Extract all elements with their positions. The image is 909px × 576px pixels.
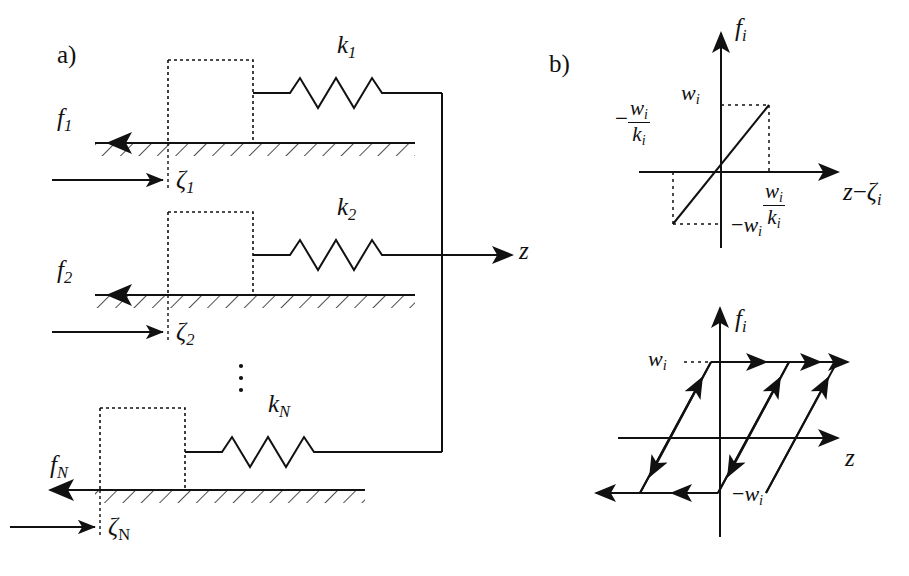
chart-bottom-ytick-negative: −wi bbox=[732, 481, 763, 509]
chart-top-xlabel: z−ζi bbox=[843, 178, 882, 210]
state-label-zetan: ζN bbox=[108, 513, 130, 545]
chart-top-xtick-negative: −wiki bbox=[615, 97, 650, 149]
spring-1 bbox=[253, 78, 442, 108]
figure-canvas bbox=[0, 0, 909, 576]
falling-branch-left bbox=[650, 362, 711, 476]
chart-top-ytick-negative: −wi bbox=[731, 212, 762, 240]
ground-surface-1 bbox=[95, 143, 415, 156]
chart-bottom-hysteresis bbox=[596, 308, 848, 537]
ground-surface-n bbox=[95, 490, 365, 503]
falling-branch-middle bbox=[728, 362, 789, 476]
spring-label-k1: k1 bbox=[337, 31, 356, 63]
maxwell-element-n bbox=[10, 408, 442, 537]
displacement-indicator-n bbox=[10, 490, 100, 537]
spring-2 bbox=[253, 240, 442, 270]
spring-label-k2: k2 bbox=[337, 193, 356, 225]
force-label-f2: f2 bbox=[57, 256, 72, 288]
ground-surface-2 bbox=[95, 295, 415, 308]
panel-a-mechanical-diagram bbox=[10, 60, 512, 537]
chart-bottom-ytick-positive: wi bbox=[648, 346, 667, 374]
maxwell-element-1 bbox=[52, 60, 442, 190]
spring-n bbox=[185, 437, 442, 467]
state-label-zeta1: ζ1 bbox=[176, 166, 194, 198]
panel-label-a: a) bbox=[57, 41, 76, 69]
chart-top-xtick-positive: wiki bbox=[763, 180, 785, 232]
output-label-z: z bbox=[519, 237, 529, 265]
slip-block-1 bbox=[168, 60, 253, 143]
state-label-zeta2: ζ2 bbox=[176, 318, 194, 350]
force-label-f1: f1 bbox=[57, 104, 72, 136]
panel-label-b: b) bbox=[549, 50, 570, 78]
slip-block-n bbox=[100, 408, 185, 490]
force-label-fn: fN bbox=[50, 451, 68, 483]
elements-ellipsis bbox=[239, 364, 243, 392]
chart-top-ylabel: fi bbox=[735, 14, 747, 46]
output-bus bbox=[442, 93, 512, 452]
chart-bottom-xlabel: z bbox=[845, 444, 855, 472]
slip-block-2 bbox=[168, 212, 253, 295]
spring-label-kn: kN bbox=[268, 390, 290, 422]
figure-root: a) b) k1 k2 kN f1 f2 fN ζ1 ζ2 ζN z fi z−… bbox=[0, 0, 909, 576]
maxwell-element-2 bbox=[52, 212, 442, 342]
chart-top-ytick-positive: wi bbox=[681, 80, 700, 108]
chart-bottom-ylabel: fi bbox=[735, 305, 747, 337]
